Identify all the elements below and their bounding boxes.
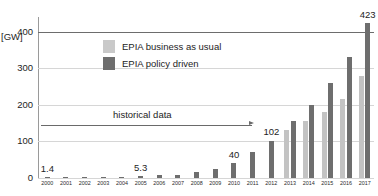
bar-group-2017: 423 [355, 17, 374, 178]
historical-data-arrow-head-icon [249, 121, 254, 125]
bar-policy-2004 [119, 177, 124, 178]
bar-policy-2014 [309, 105, 314, 178]
legend-swatch-icon-bau [103, 40, 115, 53]
x-tick-2003: 2003 [97, 181, 109, 186]
bar-group-2001 [57, 17, 76, 178]
bar-group-2015 [318, 17, 337, 178]
bar-bau-2014 [303, 121, 308, 178]
x-tick-2016: 2016 [340, 181, 352, 186]
bar-policy-2005 [138, 176, 143, 178]
bar-policy-2006 [157, 175, 162, 178]
y-tick-300: 300 [17, 63, 33, 73]
bar-policy-2000 [45, 177, 50, 178]
bar-group-2011 [243, 17, 262, 178]
bar-policy-2008 [194, 172, 199, 178]
bar-policy-2001 [63, 177, 68, 178]
bar-bau-2017 [359, 76, 364, 178]
legend-label-bau: EPIA business as usual [122, 42, 221, 52]
bar-policy-2010 [231, 163, 236, 178]
historical-data-annotation-label: historical data [113, 110, 172, 120]
bar-policy-2017 [365, 23, 370, 178]
bar-group-2014 [299, 17, 318, 178]
x-tick-2015: 2015 [321, 181, 333, 186]
chart-legend: EPIA business as usual EPIA policy drive… [103, 38, 221, 72]
y-tick-100: 100 [17, 137, 33, 147]
x-tick-2001: 2001 [60, 181, 72, 186]
x-tick-2009: 2009 [209, 181, 221, 186]
bar-group-2010: 40 [225, 17, 244, 178]
bar-group-2016 [337, 17, 356, 178]
x-tick-2006: 2006 [153, 181, 165, 186]
bar-group-2002 [75, 17, 94, 178]
y-tick-0: 0 [28, 173, 33, 183]
solar-capacity-bar-chart: [GW] 0100200300400 1.45.340102423 200020… [0, 0, 378, 196]
bar-policy-2007 [175, 175, 180, 178]
historical-data-arrow-line [41, 125, 252, 126]
bar-policy-2011 [250, 152, 255, 178]
legend-item-policy: EPIA policy driven [103, 55, 221, 72]
x-tick-2005: 2005 [135, 181, 147, 186]
x-tick-2002: 2002 [79, 181, 91, 186]
data-label-2017: 423 [360, 10, 376, 20]
data-label-2005: 5.3 [134, 163, 147, 173]
legend-item-bau: EPIA business as usual [103, 38, 221, 55]
x-tick-2004: 2004 [116, 181, 128, 186]
data-label-2010: 40 [229, 150, 240, 160]
gridline-0 [38, 178, 374, 179]
bar-bau-2015 [322, 112, 327, 178]
bar-group-2013 [281, 17, 300, 178]
data-label-2000: 1.4 [41, 164, 54, 174]
bar-policy-2009 [213, 169, 218, 178]
x-tick-2008: 2008 [191, 181, 203, 186]
bar-bau-2016 [340, 99, 345, 178]
x-tick-2011: 2011 [247, 181, 259, 186]
x-tick-2010: 2010 [228, 181, 240, 186]
bar-policy-2015 [328, 83, 333, 178]
legend-swatch-icon-policy [103, 57, 115, 70]
x-tick-2012: 2012 [265, 181, 277, 186]
bar-group-2000: 1.4 [38, 17, 57, 178]
legend-label-policy: EPIA policy driven [122, 59, 199, 69]
bar-group-2012: 102 [262, 17, 281, 178]
x-tick-2013: 2013 [284, 181, 296, 186]
bar-bau-2013 [284, 130, 289, 178]
x-tick-2000: 2000 [41, 181, 53, 186]
bar-policy-2016 [347, 57, 352, 178]
bar-policy-2012 [269, 141, 274, 178]
bar-policy-2002 [82, 177, 87, 178]
y-tick-200: 200 [17, 100, 33, 110]
x-tick-2007: 2007 [172, 181, 184, 186]
x-tick-2014: 2014 [303, 181, 315, 186]
bar-policy-2013 [291, 121, 296, 178]
bar-policy-2003 [101, 177, 106, 178]
y-tick-400: 400 [17, 27, 33, 37]
data-label-2012: 102 [263, 127, 279, 137]
x-tick-2017: 2017 [359, 181, 371, 186]
